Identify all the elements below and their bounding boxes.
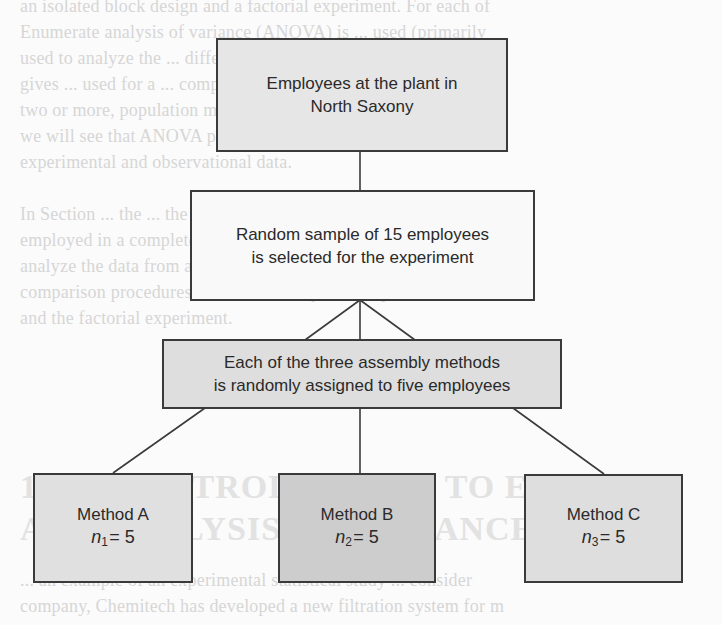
sample-line-2: is selected for the experiment (251, 246, 473, 269)
method-b-label: Method B (321, 503, 394, 526)
method-a-sample-size: n1 = 5 (91, 526, 135, 554)
assignment-box: Each of the three assembly methods is ra… (162, 339, 562, 409)
method-a-box: Method A n1 = 5 (33, 473, 193, 583)
population-box: Employees at the plant in North Saxony (216, 38, 508, 152)
connector-sample-to-assignment-right (360, 300, 415, 340)
assignment-line-1: Each of the three assembly methods (224, 351, 500, 374)
sample-line-1: Random sample of 15 employees (236, 223, 489, 246)
connector-assignment-to-method-a (113, 408, 205, 473)
population-line-2: North Saxony (311, 95, 414, 118)
method-b-sample-size: n2 = 5 (335, 526, 379, 554)
method-a-label: Method A (77, 503, 149, 526)
assignment-line-2: is randomly assigned to five employees (214, 374, 511, 397)
population-line-1: Employees at the plant in (267, 72, 458, 95)
method-c-sample-size: n3 = 5 (582, 526, 626, 554)
method-c-label: Method C (567, 503, 641, 526)
method-c-box: Method C n3 = 5 (524, 474, 683, 583)
method-b-box: Method B n2 = 5 (278, 473, 436, 583)
connector-assignment-to-method-c (513, 408, 604, 474)
connector-sample-to-assignment-left (305, 300, 360, 340)
sample-box: Random sample of 15 employees is selecte… (190, 190, 535, 301)
